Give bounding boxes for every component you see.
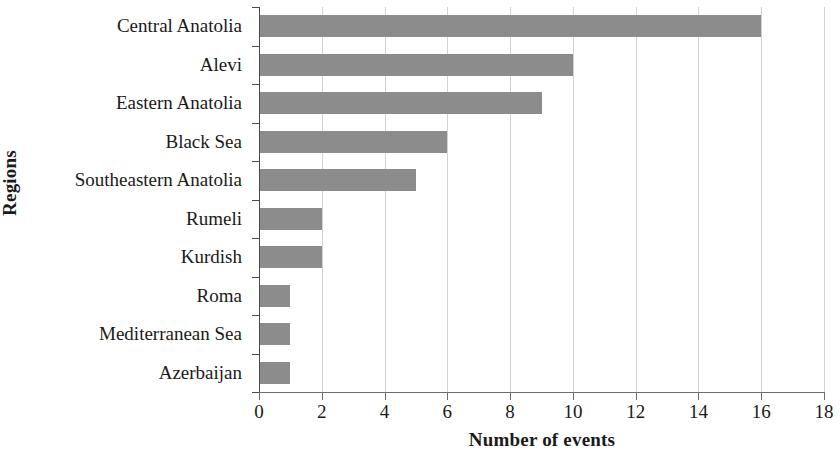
- y-axis-tick: [252, 238, 259, 239]
- gridline: [573, 7, 574, 392]
- category-label: Eastern Anatolia: [0, 92, 242, 114]
- y-axis-tick: [252, 161, 259, 162]
- x-axis-tick: [510, 393, 511, 400]
- category-label: Black Sea: [0, 131, 242, 153]
- category-label: Southeastern Anatolia: [0, 169, 242, 191]
- x-axis-tick: [385, 393, 386, 400]
- x-axis-tick-label: 8: [490, 400, 530, 424]
- gridline: [698, 7, 699, 392]
- x-axis-title: Number of events: [259, 429, 825, 451]
- bar: [259, 362, 290, 384]
- category-label-list: Central AnatoliaAleviEastern AnatoliaBla…: [0, 7, 250, 392]
- y-axis-tick: [252, 46, 259, 47]
- plot-area: [259, 7, 824, 392]
- x-axis-tick-label: 14: [678, 400, 718, 424]
- x-axis-tick: [761, 393, 762, 400]
- x-axis-tick-label: 4: [365, 400, 405, 424]
- x-axis-tick: [259, 393, 260, 400]
- category-label: Rumeli: [0, 208, 242, 230]
- x-axis-tick-label: 16: [741, 400, 781, 424]
- y-axis-tick: [252, 200, 259, 201]
- x-axis-tick: [573, 393, 574, 400]
- bar: [259, 285, 290, 307]
- x-axis-tick: [824, 393, 825, 400]
- bar: [259, 323, 290, 345]
- category-label: Central Anatolia: [0, 15, 242, 37]
- y-axis-tick: [252, 7, 259, 8]
- x-axis-tick: [447, 393, 448, 400]
- bar: [259, 15, 761, 37]
- x-axis-tick-label: 10: [553, 400, 593, 424]
- bar: [259, 169, 416, 191]
- x-axis-tick: [322, 393, 323, 400]
- category-label: Mediterranean Sea: [0, 323, 242, 345]
- category-label: Azerbaijan: [0, 362, 242, 384]
- y-axis-tick: [252, 123, 259, 124]
- bar: [259, 54, 573, 76]
- x-axis-tick-label: 18: [804, 400, 840, 424]
- category-label: Kurdish: [0, 246, 242, 268]
- bar: [259, 131, 447, 153]
- y-axis-tick: [252, 277, 259, 278]
- y-axis-tick: [252, 392, 259, 393]
- y-axis-tick: [252, 354, 259, 355]
- x-axis-tick-label: 2: [302, 400, 342, 424]
- x-axis-tick: [698, 393, 699, 400]
- x-axis-tick-label: 6: [427, 400, 467, 424]
- category-label: Alevi: [0, 54, 242, 76]
- gridline: [636, 7, 637, 392]
- y-axis-tick: [252, 84, 259, 85]
- gridline: [824, 7, 825, 392]
- bar: [259, 92, 542, 114]
- bar: [259, 208, 322, 230]
- y-axis-line: [259, 7, 260, 393]
- x-axis-tick-label: 12: [616, 400, 656, 424]
- gridline: [761, 7, 762, 392]
- x-axis-line: [259, 392, 825, 393]
- bar-chart: Regions Central AnatoliaAleviEastern Ana…: [0, 0, 840, 461]
- x-axis-tick-label: 0: [239, 400, 279, 424]
- bar: [259, 246, 322, 268]
- x-axis-tick: [636, 393, 637, 400]
- category-label: Roma: [0, 285, 242, 307]
- y-axis-tick: [252, 315, 259, 316]
